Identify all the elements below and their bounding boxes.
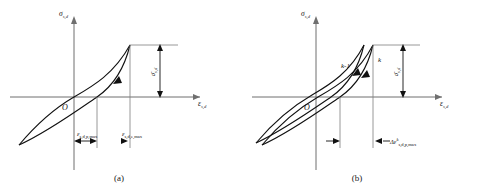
y-axis-label-a: σs,d <box>59 9 69 20</box>
cycle-k-upper-b <box>262 45 373 145</box>
cycle-k-minus-1-upper-b <box>256 45 364 143</box>
panel-a: σs,d εs,d O σ̄s,d εs,d,p,max εs,d,e,max … <box>0 0 238 185</box>
y-axis-arrow-a <box>71 16 77 24</box>
cycle-label-k-minus-1: k-1 <box>341 62 350 70</box>
cycle-k-lower-b <box>262 45 373 145</box>
y-axis-arrow-b <box>313 16 319 24</box>
plastic-strain-increment-label-b: Δεks,d,p,max <box>389 137 417 148</box>
origin-label-b: O <box>304 103 310 112</box>
panel-a-caption: (a) <box>0 173 238 183</box>
plastic-strain-label-a: εs,d,p,max <box>77 130 98 140</box>
panel-b-caption: (b) <box>238 173 476 183</box>
x-axis-label-b: εs,d <box>440 99 449 110</box>
panel-b: σs,d εs,d O k-1 k σ̄s,d Δεks,d,p,max (b) <box>238 0 476 185</box>
cycle-label-k: k <box>378 56 382 64</box>
stress-amplitude-label-a: σ̄s,d <box>149 67 159 76</box>
panel-a-plot: σs,d εs,d O σ̄s,d εs,d,p,max εs,d,e,max <box>0 0 238 185</box>
figure-container: σs,d εs,d O σ̄s,d εs,d,p,max εs,d,e,max … <box>0 0 477 185</box>
y-axis-label-b: σs,d <box>301 9 311 20</box>
increment-arrow-left-b <box>375 138 382 144</box>
x-axis-label-a: εs,d <box>198 99 207 110</box>
cycle-k-direction-arrow-b <box>361 70 370 78</box>
origin-label-a: O <box>62 103 68 112</box>
increment-arrow-right-b <box>333 138 340 144</box>
cycle-k-minus-1-lower-b <box>256 45 364 143</box>
elastic-strain-label-a: εs,d,e,max <box>122 130 143 140</box>
stress-amplitude-label-b: σ̄s,d <box>392 67 402 76</box>
panel-b-plot: σs,d εs,d O k-1 k σ̄s,d Δεks,d,p,max <box>238 0 477 185</box>
